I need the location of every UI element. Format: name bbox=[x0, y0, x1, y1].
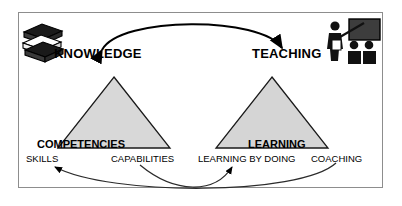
base-label-learning-by-doing: LEARNING BY DOING bbox=[198, 153, 296, 164]
node-label-teaching: TEACHING bbox=[252, 46, 322, 61]
diagram-canvas: KNOWLEDGE TEACHING COMPETENCIES LEARNING… bbox=[0, 0, 402, 206]
base-label-capabilities: CAPABILITIES bbox=[111, 153, 174, 164]
base-label-skills: SKILLS bbox=[26, 153, 58, 164]
triangle-label-competencies: COMPETENCIES bbox=[37, 138, 125, 150]
node-label-knowledge: KNOWLEDGE bbox=[54, 46, 142, 61]
triangle-label-learning: LEARNING bbox=[248, 138, 305, 150]
teaching-icon bbox=[322, 16, 382, 68]
base-label-coaching: COACHING bbox=[311, 153, 362, 164]
